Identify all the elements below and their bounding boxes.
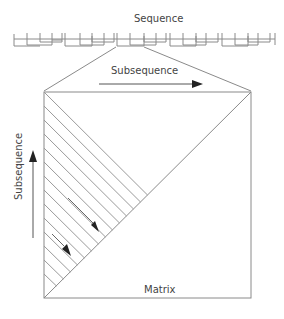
sequence-label: Sequence (134, 13, 183, 24)
matrix-label: Matrix (144, 284, 175, 295)
sequence-bar (14, 33, 275, 46)
subsequence-arrow-vertical (29, 150, 37, 238)
subsequence-horizontal-label: Subsequence (111, 65, 178, 76)
hatch-lines (44, 92, 148, 286)
subsequence-vertical-label: Subsequence (13, 133, 24, 200)
diagram-svg (0, 0, 284, 319)
subsequence-arrow-horizontal (99, 80, 203, 88)
